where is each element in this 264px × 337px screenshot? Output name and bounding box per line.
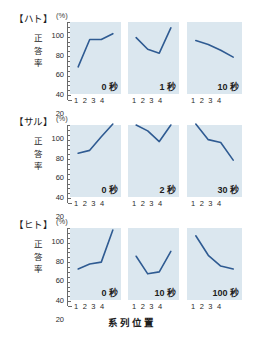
x-tick-labels: 1 2 3 4	[132, 96, 163, 105]
chart-panel: 100 秒	[187, 228, 242, 300]
chart-row-1: 【ハト】(%)正答率100806040200 秒1 2 3 41 秒1 2 3 …	[0, 8, 264, 111]
y-axis-title-char: 答	[33, 45, 44, 58]
y-axis-title-char: 正	[33, 238, 44, 251]
y-axis-title: 正答率	[33, 238, 44, 276]
y-axis-title-char: 率	[33, 263, 44, 276]
y-tick-label: 80	[56, 52, 64, 60]
panel-delay-caption: 0 秒	[101, 286, 118, 299]
data-series-line	[196, 236, 233, 269]
chart-row-3: 【ヒト】(%)正答率100806040200 秒1 2 3 410 秒1 2 3…	[0, 214, 264, 317]
y-tick-label: 60	[56, 71, 64, 79]
y-tick-minor	[68, 95, 71, 96]
x-tick-labels: 1 2 3 4	[191, 199, 222, 208]
chart-panel: 1 秒	[128, 22, 179, 94]
x-tick-labels: 1 2 3 4	[74, 199, 105, 208]
y-tick-minor	[68, 198, 71, 199]
panel-delay-caption: 2 秒	[159, 183, 176, 196]
x-tick-labels: 1 2 3 4	[132, 302, 163, 311]
x-tick-labels: 1 2 3 4	[191, 96, 222, 105]
chart-panel: 30 秒	[187, 125, 242, 197]
panel-delay-caption: 0 秒	[101, 183, 118, 196]
chart-row-2: 【サル】(%)正答率100806040200 秒1 2 3 42 秒1 2 3 …	[0, 111, 264, 214]
y-tick-label-group: 10080604020	[44, 22, 64, 106]
y-axis-title-char: 率	[33, 160, 44, 173]
y-tick-label-group: 10080604020	[44, 228, 64, 312]
chart-panel: 0 秒	[70, 22, 121, 94]
panel-delay-caption: 0 秒	[101, 80, 118, 93]
x-tick-labels: 1 2 3 4	[191, 302, 222, 311]
y-axis-title-char: 答	[33, 148, 44, 161]
data-series-line	[136, 28, 171, 53]
chart-panel: 10 秒	[128, 228, 179, 300]
chart-panel: 0 秒	[70, 228, 121, 300]
x-axis-title: 系列位置	[0, 315, 264, 329]
y-tick-label: 60	[56, 277, 64, 285]
chart-panel: 10 秒	[187, 22, 242, 94]
chart-panel: 2 秒	[128, 125, 179, 197]
y-tick-label: 100	[51, 135, 64, 143]
y-tick-label: 40	[56, 91, 64, 99]
data-series-line	[78, 34, 113, 67]
y-tick-label: 100	[51, 32, 64, 40]
y-tick-label: 40	[56, 297, 64, 305]
y-axis-title-char: 正	[33, 135, 44, 148]
y-tick-major	[68, 306, 72, 307]
serial-position-chart-figure: 【ハト】(%)正答率100806040200 秒1 2 3 41 秒1 2 3 …	[0, 0, 264, 337]
panel-delay-caption: 100 秒	[212, 286, 239, 299]
y-axis-title-char: 答	[33, 251, 44, 264]
y-tick-major	[68, 100, 72, 101]
data-series-line	[196, 124, 233, 160]
y-axis-unit-label: (%)	[56, 11, 68, 20]
chart-panel: 0 秒	[70, 125, 121, 197]
y-tick-major	[68, 203, 72, 204]
y-axis-title-char: 率	[33, 57, 44, 70]
data-series-line	[78, 230, 113, 269]
panel-delay-caption: 1 秒	[159, 80, 176, 93]
data-series-line	[78, 124, 113, 153]
panel-delay-caption: 10 秒	[217, 80, 239, 93]
y-axis-title-char: 正	[33, 32, 44, 45]
x-tick-labels: 1 2 3 4	[74, 96, 105, 105]
panel-delay-caption: 30 秒	[217, 183, 239, 196]
y-axis-title: 正答率	[33, 32, 44, 70]
data-series-line	[136, 251, 171, 273]
x-tick-labels: 1 2 3 4	[132, 199, 163, 208]
data-series-line	[196, 41, 233, 58]
y-tick-label: 100	[51, 238, 64, 246]
y-tick-label-group: 10080604020	[44, 125, 64, 209]
y-tick-minor	[68, 301, 71, 302]
x-tick-labels: 1 2 3 4	[74, 302, 105, 311]
y-tick-label: 60	[56, 174, 64, 182]
y-axis-unit-label: (%)	[56, 114, 68, 123]
y-tick-label: 40	[56, 194, 64, 202]
data-series-line	[136, 125, 171, 142]
y-axis-title: 正答率	[33, 135, 44, 173]
y-axis-unit-label: (%)	[56, 217, 68, 226]
y-tick-label: 80	[56, 155, 64, 163]
panel-delay-caption: 10 秒	[154, 286, 176, 299]
y-tick-label: 80	[56, 258, 64, 266]
